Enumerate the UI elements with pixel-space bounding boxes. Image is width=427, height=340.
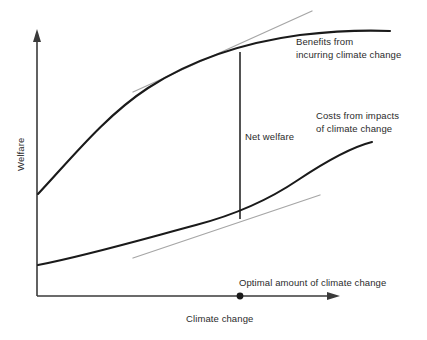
x-axis: [37, 292, 340, 300]
optimal-amount-label: Optimal amount of climate change: [239, 277, 386, 290]
benefits-curve-label: Benefits fromincurring climate change: [296, 36, 401, 61]
costs-label-line-2: of climate change: [316, 123, 392, 134]
benefits-label-line-2: incurring climate change: [296, 49, 401, 60]
x-axis-arrowhead: [327, 292, 340, 300]
costs-tangent-line: [133, 195, 320, 258]
climate-welfare-diagram: Benefits fromincurring climate change Co…: [0, 0, 427, 340]
net-welfare-label: Net welfare: [245, 131, 294, 144]
costs-curve-label: Costs from impactsof climate change: [316, 110, 399, 135]
y-axis: [33, 29, 41, 296]
benefits-label-line-1: Benefits from: [296, 36, 353, 47]
y-axis-arrowhead: [33, 29, 41, 42]
costs-curve: [38, 142, 372, 265]
x-axis-title: Climate change: [186, 313, 253, 326]
optimum-point-marker: [237, 293, 244, 300]
costs-label-line-1: Costs from impacts: [316, 110, 399, 121]
y-axis-title: Welfare: [15, 124, 28, 184]
